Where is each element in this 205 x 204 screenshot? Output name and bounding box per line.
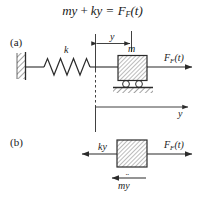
wall-support-icon bbox=[17, 52, 26, 80]
displacement-dimension-label: y bbox=[110, 32, 114, 42]
y-axis-label: y bbox=[178, 109, 182, 119]
inertia-force-accel-symbol: y bbox=[125, 181, 129, 191]
spring-force-label: ky bbox=[98, 142, 107, 152]
mass-block-b bbox=[117, 140, 147, 167]
roller-wheels-icon bbox=[118, 81, 147, 88]
mass-label-a: m bbox=[128, 44, 135, 54]
mass-block-a bbox=[118, 56, 147, 81]
spring-icon bbox=[26, 59, 119, 76]
applied-force-arg-a: (t) bbox=[174, 52, 183, 63]
applied-force-label-b: FF(t) bbox=[164, 140, 184, 152]
y-axis-arrow bbox=[96, 105, 189, 132]
inertia-force-label: my bbox=[118, 181, 130, 191]
applied-force-arg-b: (t) bbox=[174, 139, 183, 150]
ground-support-icon bbox=[113, 88, 153, 94]
mass-spring-figure: my+ky=FF(t) (a) (b) bbox=[0, 0, 205, 204]
diagram-graphics bbox=[0, 0, 205, 204]
spring-stiffness-label: k bbox=[64, 45, 68, 55]
applied-force-label-a: FF(t) bbox=[164, 53, 184, 65]
